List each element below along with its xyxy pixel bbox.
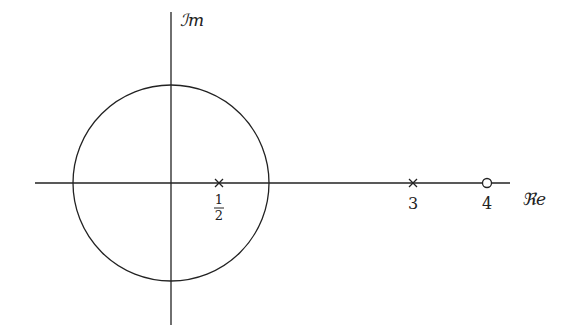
pole-marker-3: 3 [408,179,418,213]
pole-label-numerator: 1 [215,192,223,207]
pole-label: 3 [408,194,418,213]
imaginary-axis-label: ℐm [180,10,204,30]
pole-zero-diagram: ℐm ℜe 1 2 3 4 [0,0,579,336]
pole-label-denominator: 2 [215,208,223,223]
circle-mark-icon [483,179,492,188]
zero-label: 4 [482,194,492,213]
real-axis-label: ℜe [522,189,546,209]
pole-marker-half: 1 2 [214,179,224,223]
zero-marker-4: 4 [482,179,492,214]
